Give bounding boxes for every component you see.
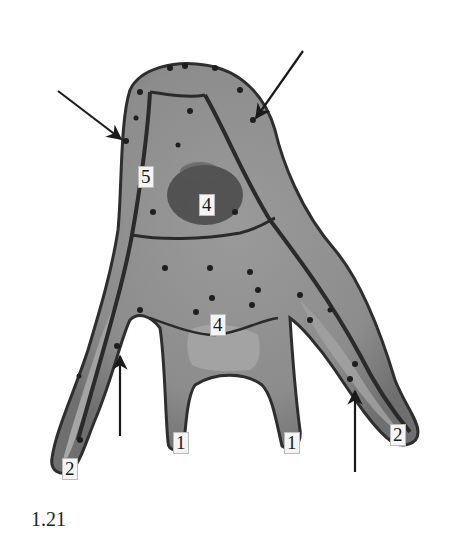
- label-4-upper: 4: [199, 194, 215, 216]
- tissue-outline: [52, 64, 418, 474]
- label-2-left: 2: [62, 458, 78, 480]
- arrow-upper-left: [58, 91, 121, 139]
- arrow-upper-right: [256, 51, 303, 118]
- tissue-specimen: [52, 63, 418, 473]
- label-1-left: 1: [173, 432, 189, 454]
- label-5: 5: [138, 166, 154, 188]
- figure-number: 1.21: [31, 508, 66, 531]
- label-2-right: 2: [390, 424, 406, 446]
- label-1-right: 1: [284, 432, 300, 454]
- label-4-lower: 4: [210, 314, 226, 336]
- dark-central-core: [180, 162, 220, 182]
